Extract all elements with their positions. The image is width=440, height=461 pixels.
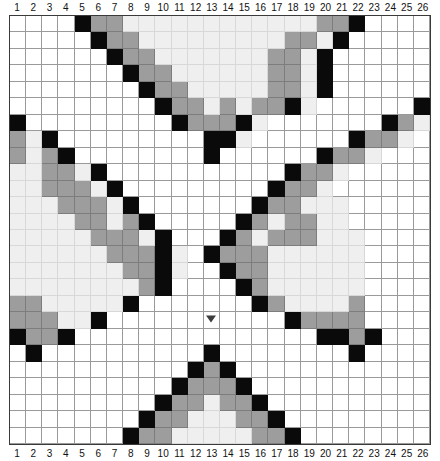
grid-cell[interactable] xyxy=(42,312,58,328)
grid-cell[interactable] xyxy=(139,279,155,295)
grid-cell[interactable] xyxy=(188,263,204,279)
pattern-grid[interactable] xyxy=(9,15,431,445)
grid-cell[interactable] xyxy=(26,230,42,246)
grid-cell[interactable] xyxy=(365,411,381,427)
grid-cell[interactable] xyxy=(365,115,381,131)
grid-cell[interactable] xyxy=(220,362,236,378)
grid-cell[interactable] xyxy=(301,395,317,411)
grid-cell[interactable] xyxy=(172,296,188,312)
grid-cell[interactable] xyxy=(317,197,333,213)
grid-cell[interactable] xyxy=(10,115,26,131)
grid-cell[interactable] xyxy=(58,263,74,279)
grid-cell[interactable] xyxy=(333,98,349,114)
grid-cell[interactable] xyxy=(252,82,268,98)
grid-cell[interactable] xyxy=(42,345,58,361)
grid-cell[interactable] xyxy=(123,131,139,147)
grid-cell[interactable] xyxy=(285,329,301,345)
grid-cell[interactable] xyxy=(268,428,284,444)
grid-cell[interactable] xyxy=(382,362,398,378)
grid-cell[interactable] xyxy=(382,279,398,295)
grid-cell[interactable] xyxy=(349,246,365,262)
grid-cell[interactable] xyxy=(414,345,430,361)
grid-cell[interactable] xyxy=(139,115,155,131)
grid-cell[interactable] xyxy=(220,329,236,345)
grid-cell[interactable] xyxy=(285,296,301,312)
grid-cell[interactable] xyxy=(220,98,236,114)
grid-cell[interactable] xyxy=(268,115,284,131)
grid-cell[interactable] xyxy=(188,246,204,262)
grid-cell[interactable] xyxy=(349,378,365,394)
grid-cell[interactable] xyxy=(123,115,139,131)
grid-cell[interactable] xyxy=(155,131,171,147)
grid-cell[interactable] xyxy=(42,82,58,98)
grid-cell[interactable] xyxy=(10,246,26,262)
grid-cell[interactable] xyxy=(155,378,171,394)
grid-cell[interactable] xyxy=(107,98,123,114)
grid-cell[interactable] xyxy=(10,32,26,48)
grid-cell[interactable] xyxy=(58,98,74,114)
grid-cell[interactable] xyxy=(220,65,236,81)
grid-cell[interactable] xyxy=(204,214,220,230)
grid-cell[interactable] xyxy=(26,65,42,81)
grid-cell[interactable] xyxy=(139,312,155,328)
grid-cell[interactable] xyxy=(333,82,349,98)
grid-cell[interactable] xyxy=(301,362,317,378)
grid-cell[interactable] xyxy=(75,263,91,279)
grid-cell[interactable] xyxy=(91,164,107,180)
grid-cell[interactable] xyxy=(398,312,414,328)
grid-cell[interactable] xyxy=(398,32,414,48)
grid-cell[interactable] xyxy=(172,98,188,114)
grid-cell[interactable] xyxy=(252,148,268,164)
grid-cell[interactable] xyxy=(91,32,107,48)
grid-cell[interactable] xyxy=(333,65,349,81)
grid-cell[interactable] xyxy=(10,395,26,411)
grid-cell[interactable] xyxy=(107,49,123,65)
grid-cell[interactable] xyxy=(268,329,284,345)
grid-cell[interactable] xyxy=(398,214,414,230)
grid-cell[interactable] xyxy=(398,131,414,147)
grid-cell[interactable] xyxy=(204,181,220,197)
grid-cell[interactable] xyxy=(10,411,26,427)
grid-cell[interactable] xyxy=(398,16,414,32)
grid-cell[interactable] xyxy=(268,214,284,230)
grid-cell[interactable] xyxy=(252,115,268,131)
grid-cell[interactable] xyxy=(75,164,91,180)
grid-cell[interactable] xyxy=(188,296,204,312)
grid-cell[interactable] xyxy=(414,279,430,295)
grid-cell[interactable] xyxy=(188,214,204,230)
grid-cell[interactable] xyxy=(75,197,91,213)
grid-cell[interactable] xyxy=(301,65,317,81)
grid-cell[interactable] xyxy=(139,411,155,427)
grid-cell[interactable] xyxy=(349,16,365,32)
grid-cell[interactable] xyxy=(252,362,268,378)
grid-cell[interactable] xyxy=(204,197,220,213)
grid-cell[interactable] xyxy=(204,279,220,295)
grid-cell[interactable] xyxy=(155,115,171,131)
grid-cell[interactable] xyxy=(188,230,204,246)
grid-cell[interactable] xyxy=(252,131,268,147)
grid-cell[interactable] xyxy=(220,411,236,427)
grid-cell[interactable] xyxy=(172,246,188,262)
grid-cell[interactable] xyxy=(75,246,91,262)
grid-cell[interactable] xyxy=(123,164,139,180)
grid-cell[interactable] xyxy=(333,115,349,131)
grid-cell[interactable] xyxy=(75,214,91,230)
grid-cell[interactable] xyxy=(349,230,365,246)
grid-cell[interactable] xyxy=(252,411,268,427)
grid-cell[interactable] xyxy=(333,131,349,147)
grid-cell[interactable] xyxy=(301,32,317,48)
grid-cell[interactable] xyxy=(317,16,333,32)
grid-cell[interactable] xyxy=(365,197,381,213)
grid-cell[interactable] xyxy=(107,329,123,345)
grid-cell[interactable] xyxy=(155,395,171,411)
grid-cell[interactable] xyxy=(204,49,220,65)
grid-cell[interactable] xyxy=(220,345,236,361)
grid-cell[interactable] xyxy=(123,263,139,279)
grid-cell[interactable] xyxy=(10,428,26,444)
grid-cell[interactable] xyxy=(382,131,398,147)
grid-cell[interactable] xyxy=(10,214,26,230)
grid-cell[interactable] xyxy=(414,411,430,427)
grid-cell[interactable] xyxy=(204,246,220,262)
grid-cell[interactable] xyxy=(26,164,42,180)
grid-cell[interactable] xyxy=(26,395,42,411)
